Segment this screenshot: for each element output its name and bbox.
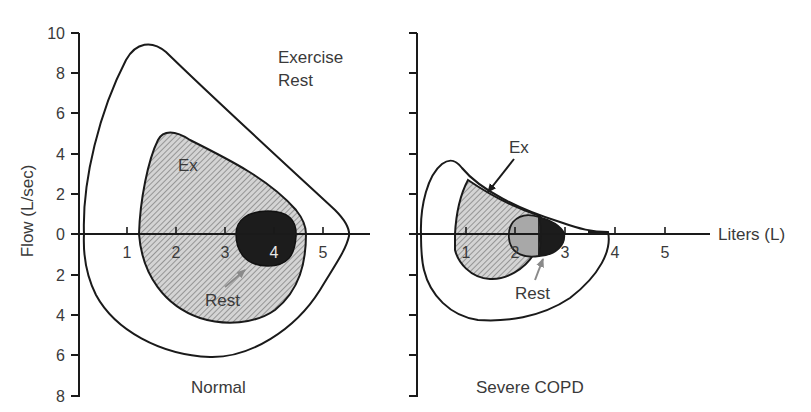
x-tick-label: 5 xyxy=(319,244,328,261)
legend-exercise: Exercise xyxy=(278,48,343,67)
x-tick-label: 4 xyxy=(611,244,620,261)
y-tick-label: 0 xyxy=(56,226,65,243)
ex-label-left: Ex xyxy=(178,156,198,175)
x-axis-label: Liters (L) xyxy=(718,225,785,244)
y-tick-label: 10 xyxy=(47,25,65,42)
ex-label-right: Ex xyxy=(509,138,529,157)
y-ticks-left xyxy=(71,33,79,396)
x-tick-label: 1 xyxy=(123,244,132,261)
y-tick-label: 4 xyxy=(56,307,65,324)
ex-arrow-right xyxy=(488,159,514,192)
y-tick-label: 2 xyxy=(56,186,65,203)
x-tick-label: 1 xyxy=(462,244,471,261)
rest-label-right: Rest xyxy=(515,284,550,303)
x-tick-label: 2 xyxy=(172,244,181,261)
right-panel-copd: 1 2 3 4 5 Liters (L) Ex Rest Severe COPD xyxy=(409,33,785,397)
y-tick-label: 8 xyxy=(56,388,65,405)
caption-copd: Severe COPD xyxy=(476,378,584,397)
normal-rest-loop xyxy=(236,211,296,266)
y-tick-label: 6 xyxy=(56,105,65,122)
y-tick-labels-left: 10 8 6 4 2 0 2 4 6 8 xyxy=(47,25,65,405)
y-tick-label: 8 xyxy=(56,65,65,82)
y-axis-label: Flow (L/sec) xyxy=(18,165,37,258)
rest-label-left: Rest xyxy=(205,291,240,310)
left-panel-normal: Flow (L/sec) 10 8 6 4 2 0 2 4 6 8 xyxy=(18,25,370,405)
y-tick-label: 6 xyxy=(56,347,65,364)
flow-volume-chart: Flow (L/sec) 10 8 6 4 2 0 2 4 6 8 xyxy=(0,0,811,412)
y-tick-label: 2 xyxy=(56,267,65,284)
caption-normal: Normal xyxy=(191,378,246,397)
x-tick-label: 3 xyxy=(561,244,570,261)
y-ticks-right xyxy=(409,33,417,396)
x-tick-label: 4 xyxy=(270,244,279,261)
x-tick-label: 2 xyxy=(511,244,520,261)
y-tick-label: 4 xyxy=(56,146,65,163)
x-tick-label: 3 xyxy=(221,244,230,261)
legend-rest: Rest xyxy=(278,71,313,90)
x-tick-label: 5 xyxy=(661,244,670,261)
